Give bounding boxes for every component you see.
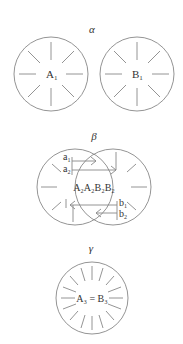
beta-label-a1: a1 (63, 151, 70, 163)
alpha-label-a: A1 (46, 68, 58, 82)
beta-label-b2: b2 (119, 208, 127, 220)
alpha-label-b: B1 (132, 68, 143, 82)
beta-title: β (90, 130, 97, 142)
gamma-title: γ (89, 242, 94, 254)
gamma-center-label: A₃ = B₃ (76, 293, 108, 304)
alpha-title: α (89, 23, 95, 35)
diagram-canvas: α A1 B1 β a1 a2 A₂A₂B₂B₂ b1 b2 γ A₃ = B₃ (0, 0, 183, 344)
beta-label-a2: a2 (63, 163, 70, 175)
beta-center-label: A₂A₂B₂B₂ (73, 182, 115, 193)
